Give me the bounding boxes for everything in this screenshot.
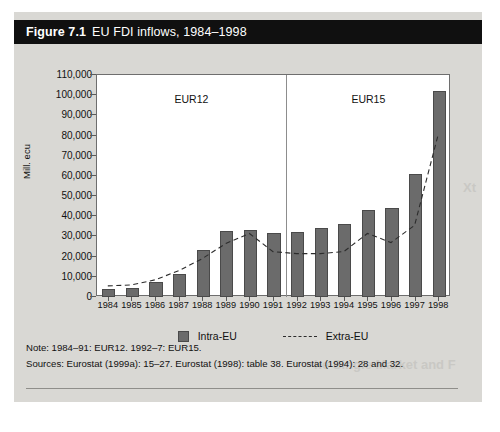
x-tick-label: 1994 <box>334 300 354 310</box>
y-tick-label: 50,000 <box>34 190 92 201</box>
y-tick-label: 30,000 <box>34 230 92 241</box>
legend-entry-extra-eu: Extra-EU <box>283 330 369 342</box>
bar <box>126 288 139 297</box>
notes-divider <box>26 388 458 389</box>
sources-line: Sources: Eurostat (1999a): 15–27. Eurost… <box>26 358 474 369</box>
legend-entry-intra-eu: Intra-EU <box>178 330 237 342</box>
x-tick-label: 1985 <box>121 300 141 310</box>
bar <box>102 289 115 297</box>
legend-dashed-line-icon <box>283 336 317 337</box>
x-tick-label: 1988 <box>192 300 212 310</box>
chart-plot-panel: Mill. ecu 110,000100,00090,00080,00070,0… <box>32 60 464 322</box>
y-tick-mark <box>90 296 96 297</box>
bar <box>267 233 280 297</box>
bar <box>433 91 446 297</box>
y-tick-label: 100,000 <box>34 89 92 100</box>
bar <box>149 282 162 297</box>
bar <box>338 224 351 297</box>
figure-notes: Note: 1984–91: EUR12. 1992–7: EUR15. Sou… <box>26 342 474 374</box>
y-tick-label: 40,000 <box>34 210 92 221</box>
x-tick-label: 1991 <box>263 300 283 310</box>
x-tick-label: 1992 <box>286 300 306 310</box>
bar <box>409 174 422 297</box>
figure-title-bar: Figure 7.1 EU FDI inflows, 1984–1998 <box>14 20 482 44</box>
figure-container: Xt he Single Market and F Figure 7.1 EU … <box>14 12 482 402</box>
legend-label-extra-eu: Extra-EU <box>326 330 369 342</box>
x-tick-label: 1997 <box>404 300 424 310</box>
x-tick-label: 1995 <box>357 300 377 310</box>
plot-area: EUR12 EUR15 <box>96 74 450 296</box>
period-label-eur15: EUR15 <box>286 93 451 105</box>
y-tick-label: 110,000 <box>34 69 92 80</box>
bar <box>362 210 375 297</box>
bar <box>173 274 186 297</box>
bar <box>197 250 210 297</box>
legend-label-intra-eu: Intra-EU <box>198 330 237 342</box>
x-tick-label: 1993 <box>310 300 330 310</box>
x-tick-label: 1990 <box>239 300 259 310</box>
y-tick-label: 80,000 <box>34 129 92 140</box>
y-tick-label: 70,000 <box>34 149 92 160</box>
figure-title: EU FDI inflows, 1984–1998 <box>92 25 247 39</box>
bar <box>244 230 257 297</box>
x-tick-label: 1998 <box>428 300 448 310</box>
x-tick-label: 1987 <box>168 300 188 310</box>
bar <box>291 232 304 297</box>
y-tick-label: 60,000 <box>34 169 92 180</box>
note-line: Note: 1984–91: EUR12. 1992–7: EUR15. <box>26 342 474 353</box>
bar <box>385 208 398 297</box>
x-tick-label: 1986 <box>145 300 165 310</box>
y-tick-label: 90,000 <box>34 109 92 120</box>
figure-number: Figure 7.1 <box>26 25 86 39</box>
bar <box>315 228 328 297</box>
x-tick-label: 1989 <box>216 300 236 310</box>
x-tick-label: 1996 <box>381 300 401 310</box>
x-tick-label: 1984 <box>98 300 118 310</box>
y-tick-label: 10,000 <box>34 270 92 281</box>
period-label-eur12: EUR12 <box>97 93 286 105</box>
page-bleed-right: Xt <box>463 180 476 195</box>
y-tick-label: 0 <box>34 291 92 302</box>
bar <box>220 231 233 297</box>
y-tick-label: 20,000 <box>34 250 92 261</box>
y-axis-title: Mill. ecu <box>21 120 32 204</box>
period-divider <box>286 75 287 297</box>
legend-bar-swatch-icon <box>178 331 189 342</box>
